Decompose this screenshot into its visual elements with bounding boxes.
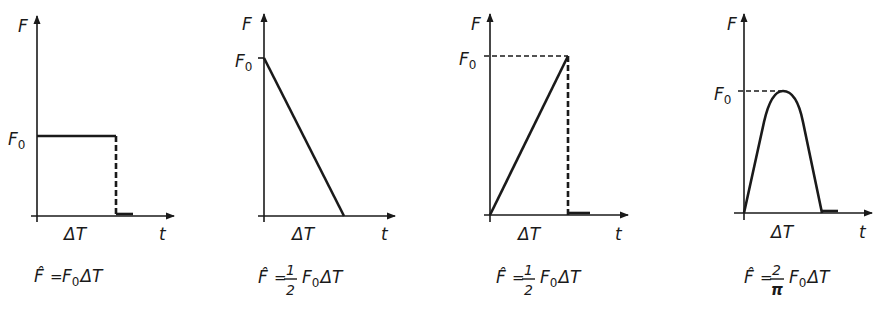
formula: F̂ = F0ΔT xyxy=(34,266,104,289)
panel-triangular-increasing: F t F0 ΔT F̂ = 1 2 F0ΔT xyxy=(459,14,628,298)
level-label: F0 xyxy=(8,129,25,152)
fraction-denominator: 2 xyxy=(286,282,295,298)
formula-lhs: F̂ xyxy=(258,267,268,287)
y-axis-label: F xyxy=(727,14,737,34)
fraction-denominator: π xyxy=(771,281,783,299)
pulse-ramp-down xyxy=(264,58,344,216)
formula-eq: = xyxy=(512,269,525,287)
formula-eq: = xyxy=(50,268,63,286)
panel-triangular-decreasing: F t F0 ΔT F̂ = 1 2 F0ΔT xyxy=(235,14,395,298)
formula-eq: = xyxy=(274,269,287,287)
formula-lhs: F̂ xyxy=(34,266,44,286)
fraction-numerator: 1 xyxy=(524,262,533,278)
x-axis-label: t xyxy=(159,224,167,244)
fraction-denominator: 2 xyxy=(524,282,533,298)
y-axis-label: F xyxy=(471,14,481,34)
pulse-ramp-up xyxy=(490,56,568,215)
pulse-half-sine xyxy=(744,91,822,213)
x-axis-label: t xyxy=(615,224,623,244)
formula-lhs: F̂ xyxy=(744,267,754,287)
formula-lhs: F̂ xyxy=(496,267,506,287)
x-axis-label: t xyxy=(381,224,389,244)
fraction-numerator: 2 xyxy=(772,262,781,278)
x-axis-label: t xyxy=(859,222,867,242)
formula: F̂ = 1 2 F0ΔT xyxy=(496,262,582,298)
formula: F̂ = 2 π F0ΔT xyxy=(744,262,831,299)
formula-rhs: F0ΔT xyxy=(302,267,344,290)
y-axis-label: F xyxy=(18,16,28,36)
level-label: F0 xyxy=(714,84,731,107)
formula-rhs: F0ΔT xyxy=(540,267,582,290)
panel-rectangular: F t F0 ΔT F̂ = F0ΔT xyxy=(8,16,174,289)
formula: F̂ = 1 2 F0ΔT xyxy=(258,262,344,298)
duration-label: ΔT xyxy=(290,224,316,244)
level-label: F0 xyxy=(235,51,252,74)
fraction-numerator: 1 xyxy=(286,262,295,278)
panel-half-sine: F t F0 ΔT F̂ = 2 π F0ΔT xyxy=(714,14,872,299)
formula-rhs: F0ΔT xyxy=(62,266,104,289)
duration-label: ΔT xyxy=(62,224,88,244)
y-axis-label: F xyxy=(242,14,252,34)
level-label: F0 xyxy=(459,49,476,72)
duration-label: ΔT xyxy=(769,222,795,242)
duration-label: ΔT xyxy=(516,224,542,244)
impulse-shapes-diagram: F t F0 ΔT F̂ = F0ΔT F t F0 ΔT F̂ = 1 2 F… xyxy=(0,0,878,313)
formula-rhs: F0ΔT xyxy=(789,267,831,290)
